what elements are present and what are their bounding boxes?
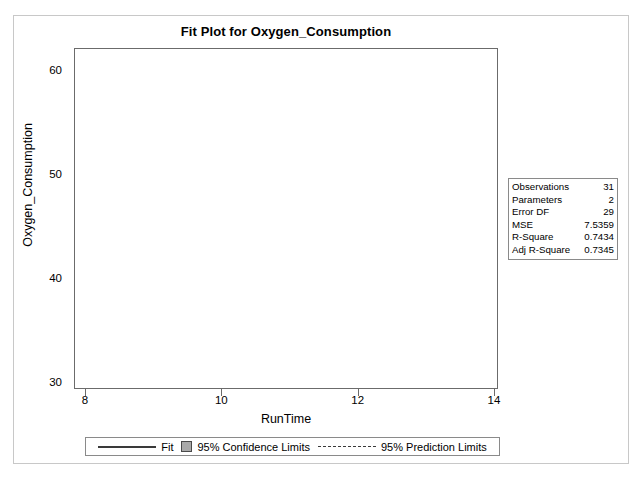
- confidence-band-icon: [181, 441, 192, 452]
- x-tick-mark-14: [494, 389, 495, 396]
- plot-legend: Fit 95% Confidence Limits 95% Prediction…: [85, 437, 500, 456]
- stats-row: Adj R-Square0.7345: [512, 244, 614, 257]
- x-tick-mark-8: [85, 389, 86, 396]
- stats-row: R-Square0.7434: [512, 231, 614, 244]
- x-axis-tick-labels: 8101214: [74, 394, 498, 410]
- y-axis-tick-60: 60: [49, 64, 62, 76]
- prediction-line-icon: [318, 446, 376, 447]
- stats-label: Error DF: [512, 206, 553, 219]
- stats-value: 7.5359: [584, 219, 614, 232]
- plot-area: [74, 48, 498, 389]
- page-title: Fit Plot for Oxygen_Consumption: [74, 24, 498, 39]
- legend-item-prediction: 95% Prediction Limits: [318, 441, 487, 453]
- legend-item-fit: Fit: [98, 441, 173, 453]
- x-tick-mark-10: [221, 389, 222, 396]
- stats-value: 2: [609, 194, 614, 207]
- legend-label-prediction: 95% Prediction Limits: [381, 441, 487, 453]
- legend-label-fit: Fit: [161, 441, 173, 453]
- y-axis-label: Oxygen_Consumption: [21, 75, 35, 295]
- legend-label-confidence: 95% Confidence Limits: [197, 441, 310, 453]
- stats-label: MSE: [512, 219, 537, 232]
- stats-row: Observations31: [512, 181, 614, 194]
- y-axis-tick-40: 40: [49, 272, 62, 284]
- fit-statistics-box: Observations31Parameters2Error DF29MSE7.…: [508, 178, 618, 260]
- stats-label: R-Square: [512, 231, 557, 244]
- stats-row: Parameters2: [512, 194, 614, 207]
- stats-value: 0.7434: [584, 231, 614, 244]
- stats-value: 29: [603, 206, 614, 219]
- x-tick-mark-12: [358, 389, 359, 396]
- legend-item-confidence: 95% Confidence Limits: [181, 441, 310, 453]
- stats-value: 31: [603, 181, 614, 194]
- stats-row: Error DF29: [512, 206, 614, 219]
- stats-row: MSE7.5359: [512, 219, 614, 232]
- y-axis-tick-50: 50: [49, 168, 62, 180]
- stats-value: 0.7345: [584, 244, 614, 257]
- fit-line-icon: [98, 446, 156, 448]
- stats-label: Adj R-Square: [512, 244, 574, 257]
- y-axis-tick-30: 30: [49, 376, 62, 388]
- plot-frame: [74, 48, 498, 389]
- x-axis-label: RunTime: [74, 412, 498, 426]
- stats-label: Observations: [512, 181, 573, 194]
- stats-label: Parameters: [512, 194, 566, 207]
